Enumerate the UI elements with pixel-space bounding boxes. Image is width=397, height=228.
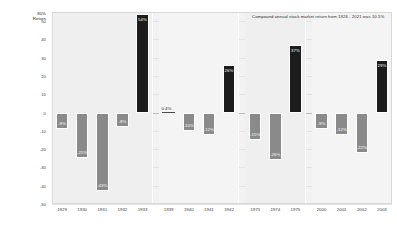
y-axis-tick: -30 xyxy=(40,165,46,170)
bar-value-label: -43% xyxy=(97,183,107,188)
x-axis-tick: 1975 xyxy=(291,207,301,212)
bar-value-label: 26% xyxy=(224,68,234,73)
bar-value-label: -10% xyxy=(184,123,194,128)
x-axis-tick: 2000 xyxy=(317,207,327,212)
bar-value-label: -25% xyxy=(77,150,87,155)
stock-market-returns-chart: 80% Return 50403020100-10-20-30-40-50 -9… xyxy=(0,0,397,228)
bar-value-label: -12% xyxy=(336,127,346,132)
bar-value-label: -9% xyxy=(316,121,326,126)
x-axis-tick: 1973 xyxy=(250,207,260,212)
bar-value-label: -9% xyxy=(57,121,67,126)
x-axis: 1929193019311932193319391940194119421973… xyxy=(52,204,392,222)
bar-value-label: -15% xyxy=(250,132,260,137)
x-axis-tick: 1930 xyxy=(77,207,87,212)
x-axis-tick: 1939 xyxy=(164,207,174,212)
x-axis-tick: 2001 xyxy=(337,207,347,212)
x-axis-tick: 1932 xyxy=(118,207,128,212)
bar-value-label: 37% xyxy=(290,48,300,53)
x-axis-tick: 2002 xyxy=(357,207,367,212)
x-axis-tick: 1929 xyxy=(57,207,67,212)
bar-value-label: 0.4% xyxy=(161,105,171,110)
bar: -43% xyxy=(96,113,108,192)
bar: 26% xyxy=(223,65,235,113)
x-axis-tick: 1940 xyxy=(184,207,194,212)
bar: -25% xyxy=(76,113,88,159)
bar: -26% xyxy=(269,113,281,161)
y-axis-tick: -20 xyxy=(40,147,46,152)
bar: -12% xyxy=(203,113,215,135)
bar-value-label: -26% xyxy=(270,152,280,157)
bar: -8% xyxy=(116,113,128,128)
bar-value-label: 29% xyxy=(377,63,387,68)
x-axis-tick: 1942 xyxy=(224,207,234,212)
bar: 29% xyxy=(376,60,388,113)
bar-value-label: -12% xyxy=(204,127,214,132)
bar: -9% xyxy=(315,113,327,129)
x-axis-tick: 1933 xyxy=(138,207,148,212)
bar: -15% xyxy=(249,113,261,140)
y-axis-tick: 20 xyxy=(41,74,46,79)
bar: -12% xyxy=(335,113,347,135)
bar xyxy=(162,112,174,113)
bar-value-label: 54% xyxy=(137,17,147,22)
x-axis-tick: 2003 xyxy=(377,207,387,212)
y-axis-tick: 10 xyxy=(41,92,46,97)
bar: 37% xyxy=(289,45,301,113)
y-axis-tick: 40 xyxy=(41,37,46,42)
y-axis-tick: 0 xyxy=(44,110,46,115)
x-axis-tick: 1931 xyxy=(97,207,107,212)
bar: -9% xyxy=(56,113,68,129)
bar-value-label: -22% xyxy=(357,145,367,150)
chart-annotation: Compound annual stock market return from… xyxy=(252,14,384,19)
x-axis-tick: 1941 xyxy=(204,207,214,212)
bar-value-label: -8% xyxy=(117,119,127,124)
y-axis-tick: 50 xyxy=(41,19,46,24)
bar: 54% xyxy=(136,14,148,113)
y-axis-tick: -40 xyxy=(40,183,46,188)
y-axis-tick: -50 xyxy=(40,202,46,207)
bar: -22% xyxy=(356,113,368,153)
plot-area: -9%-25%-43%-8%54%0.4%-10%-12%26%-15%-26%… xyxy=(52,12,392,204)
y-axis: 80% Return 50403020100-10-20-30-40-50 xyxy=(0,12,50,204)
y-axis-tick: 30 xyxy=(41,55,46,60)
bar: -10% xyxy=(183,113,195,131)
x-axis-tick: 1974 xyxy=(270,207,280,212)
y-axis-tick: -10 xyxy=(40,128,46,133)
